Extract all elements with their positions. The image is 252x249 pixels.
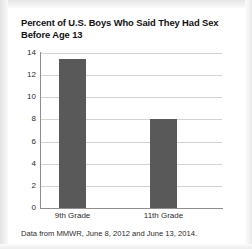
y-axis-tick-labels: 14121086420 bbox=[10, 53, 36, 208]
chart-title-line-1: Percent of U.S. Boys Who Said They Had S… bbox=[21, 17, 218, 28]
y-tick-label-12: 12 bbox=[14, 70, 36, 79]
y-tick-label-14: 14 bbox=[14, 48, 36, 57]
chart-title-line-2: Before Age 13 bbox=[21, 29, 82, 40]
y-tick-label-2: 2 bbox=[14, 181, 36, 190]
y-tick-label-10: 10 bbox=[14, 92, 36, 101]
y-tick-label-0: 0 bbox=[14, 203, 36, 212]
y-tick-label-8: 8 bbox=[14, 114, 36, 123]
source-note: Data from MMWR, June 8, 2012 and June 13… bbox=[21, 229, 241, 238]
chart-sheet: Percent of U.S. Boys Who Said They Had S… bbox=[8, 8, 245, 244]
y-tick-label-6: 6 bbox=[14, 137, 36, 146]
bar-9th-grade bbox=[59, 59, 86, 208]
x-tick-label-11th-grade: 11th Grade bbox=[134, 211, 194, 220]
x-tick-label-9th-grade: 9th Grade bbox=[43, 211, 103, 220]
bar-11th-grade bbox=[150, 119, 177, 208]
page-edge-left bbox=[0, 0, 8, 249]
page-edge-bottom bbox=[0, 244, 252, 249]
page-edge-top bbox=[0, 0, 252, 8]
chart-title: Percent of U.S. Boys Who Said They Had S… bbox=[21, 17, 236, 40]
page-edge-right bbox=[245, 0, 252, 249]
y-tick-label-4: 4 bbox=[14, 159, 36, 168]
x-axis-line bbox=[40, 208, 223, 209]
bar-series bbox=[40, 53, 222, 208]
